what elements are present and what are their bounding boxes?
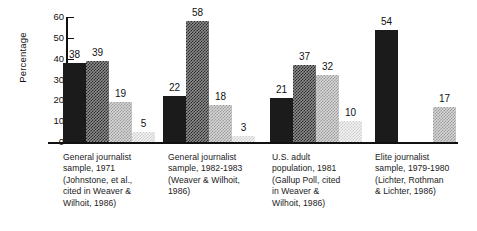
caption-line: Wilhoit, 1986) (63, 198, 163, 209)
caption-line: 1986) (168, 186, 268, 197)
bar-g1-s0: 22 (163, 96, 186, 142)
caption-line: cited in Weaver & (63, 186, 163, 197)
bar-value-label: 10 (345, 107, 356, 119)
bar-g2-s2: 32 (316, 75, 339, 142)
bar-g2-s3: 10 (339, 121, 362, 142)
bar-value-label: 17 (439, 93, 450, 105)
bar-value-label: 39 (92, 47, 103, 59)
caption-line: (Gallup Poll, cited (272, 175, 370, 186)
caption-line: (Weaver & Wilhoit, (168, 175, 268, 186)
bar-g0-s3: 5 (132, 132, 155, 142)
caption-line: (Lichter, Rothman (375, 175, 473, 186)
caption-line: General journalist (168, 152, 268, 163)
plot-area: Percentage 6050403020100 383919522581832… (0, 0, 477, 150)
bar-value-label: 18 (215, 91, 226, 103)
bar-g2-s1: 37 (293, 65, 316, 142)
bars-layer: 38391952258183213732105417 (0, 0, 477, 144)
category-caption-3: Elite journalistsample, 1979-1980(Lichte… (375, 152, 473, 198)
caption-line: (Johnstone, et al., (63, 175, 163, 186)
category-caption-1: General journalistsample, 1982-1983(Weav… (168, 152, 268, 198)
caption-line: sample, 1971 (63, 163, 163, 174)
bar-value-label: 5 (141, 118, 147, 130)
bar-g3-s1: 17 (433, 107, 456, 142)
caption-line: population, 1981 (272, 163, 370, 174)
bar-g0-s1: 39 (86, 61, 109, 142)
bar-value-label: 22 (169, 82, 180, 94)
bar-g2-s0: 21 (270, 98, 293, 142)
bar-value-label: 38 (69, 49, 80, 61)
bar-g1-s2: 18 (209, 105, 232, 143)
bar-value-label: 58 (192, 7, 203, 19)
bar-g1-s1: 58 (186, 21, 209, 142)
bar-value-label: 37 (299, 51, 310, 63)
caption-line: General journalist (63, 152, 163, 163)
caption-line: sample, 1979-1980 (375, 163, 473, 174)
bar-g3-s0: 54 (375, 30, 398, 143)
category-caption-0: General journalistsample, 1971(Johnstone… (63, 152, 163, 209)
bar-value-label: 32 (322, 61, 333, 73)
category-caption-2: U.S. adultpopulation, 1981(Gallup Poll, … (272, 152, 370, 209)
caption-line: & Lichter, 1986) (375, 186, 473, 197)
bar-value-label: 19 (115, 88, 126, 100)
bar-g1-s3: 3 (232, 136, 255, 142)
caption-line: Wilhoit, 1986) (272, 198, 370, 209)
caption-line: U.S. adult (272, 152, 370, 163)
caption-line: sample, 1982-1983 (168, 163, 268, 174)
bar-chart-figure: Percentage 6050403020100 383919522581832… (0, 0, 477, 231)
caption-line: in Weaver & (272, 186, 370, 197)
caption-line: Elite journalist (375, 152, 473, 163)
bar-value-label: 21 (276, 84, 287, 96)
category-captions: General journalistsample, 1971(Johnstone… (0, 152, 477, 231)
bar-g0-s0: 38 (63, 63, 86, 142)
bar-g0-s2: 19 (109, 102, 132, 142)
bar-value-label: 54 (381, 16, 392, 28)
bar-value-label: 3 (241, 122, 247, 134)
